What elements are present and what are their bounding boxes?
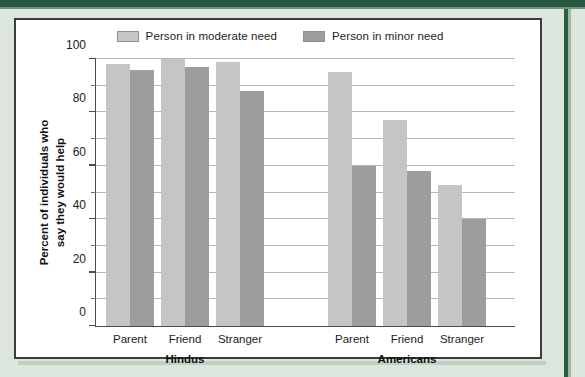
bar: [352, 166, 376, 326]
x-axis-group-label: Americans: [378, 353, 437, 365]
y-axis-title-line2: say they would help: [53, 120, 69, 266]
y-axis-tick: [89, 271, 96, 273]
gridline: [96, 165, 515, 166]
y-axis-minor-tick: [91, 245, 96, 246]
legend-entry: Person in moderate need: [117, 30, 277, 42]
y-axis-tick-label: 20: [73, 252, 86, 266]
gridline: [96, 58, 515, 59]
x-axis-category-label: Friend: [169, 333, 202, 345]
bar: [407, 171, 431, 326]
page-top-rule-secondary: [0, 7, 585, 9]
bar: [462, 219, 486, 326]
y-axis-title-line1: Percent of individuals who: [37, 120, 53, 266]
bar: [185, 67, 209, 326]
gridline: [96, 85, 515, 86]
y-axis-tick-label: 40: [73, 198, 86, 212]
figure-shadow: [18, 361, 546, 365]
gridline: [96, 111, 515, 112]
bar: [161, 59, 185, 326]
x-axis-category-label: Parent: [335, 333, 369, 345]
legend-entry: Person in minor need: [303, 30, 443, 42]
y-axis-minor-tick: [91, 192, 96, 193]
legend-swatch-icon: [117, 31, 139, 42]
y-axis-tick-label: 0: [79, 305, 86, 319]
y-axis-tick: [89, 164, 96, 166]
x-axis-category-label: Stranger: [218, 333, 262, 345]
y-axis-tick-label: 60: [73, 145, 86, 159]
x-axis-category-label: Friend: [391, 333, 424, 345]
y-axis-minor-tick: [91, 85, 96, 86]
y-axis-tick: [89, 111, 96, 113]
x-axis-group-label: Hindus: [166, 353, 205, 365]
bar: [130, 70, 154, 326]
y-axis-tick: [89, 325, 96, 327]
page-root: Person in moderate needPerson in minor n…: [0, 0, 585, 377]
y-axis-minor-tick: [91, 138, 96, 139]
y-axis-tick-label: 80: [73, 91, 86, 105]
page-right-rule-secondary: [568, 9, 571, 377]
bar: [240, 91, 264, 326]
legend-label: Person in moderate need: [146, 30, 277, 42]
y-axis-tick-label: 100: [66, 38, 86, 52]
gridline: [96, 138, 515, 139]
y-axis-tick: [89, 58, 96, 60]
chart-legend: Person in moderate needPerson in minor n…: [16, 30, 544, 42]
bar: [106, 64, 130, 326]
bar: [383, 120, 407, 326]
figure-panel: Person in moderate needPerson in minor n…: [14, 18, 542, 359]
y-axis-minor-tick: [91, 298, 96, 299]
bar: [216, 62, 240, 326]
page-top-rule: [0, 0, 585, 7]
x-axis-category-label: Stranger: [440, 333, 484, 345]
y-axis-title: Percent of individuals who say they woul…: [36, 59, 70, 326]
bar: [438, 185, 462, 327]
bar: [328, 72, 352, 326]
x-axis-category-label: Parent: [113, 333, 147, 345]
y-axis-tick: [89, 218, 96, 220]
plot-area: 020406080100 ParentFriendStrangerHindusP…: [95, 59, 515, 327]
legend-swatch-icon: [303, 31, 325, 42]
legend-label: Person in minor need: [332, 30, 443, 42]
